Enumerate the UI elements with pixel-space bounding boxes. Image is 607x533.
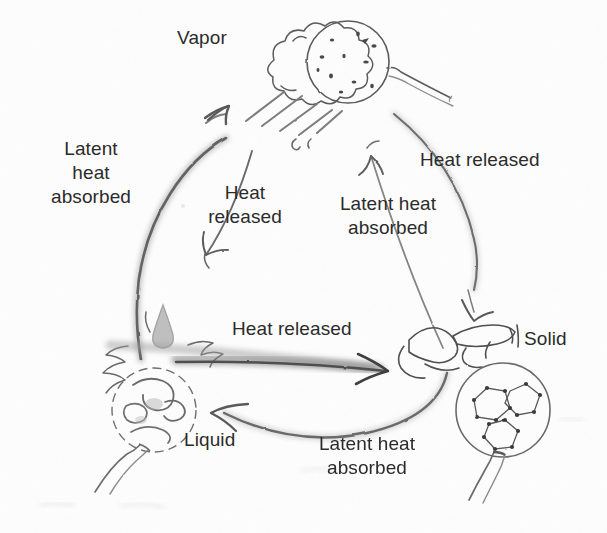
label-latent-heat-absorbed-bottom: Latent heat absorbed [284, 432, 450, 480]
label-vapor: Vapor [156, 26, 248, 50]
label-latent-heat-absorbed-middle: Latent heat absorbed [318, 192, 458, 240]
label-solid: Solid [524, 327, 594, 351]
diagram-canvas: Vapor Latent heat absorbed Heat released… [0, 0, 607, 533]
label-heat-released-top-left: Heat released [190, 181, 300, 229]
label-liquid: Liquid [184, 428, 262, 452]
label-heat-released-center: Heat released [232, 317, 388, 341]
label-latent-heat-absorbed-left: Latent heat absorbed [22, 137, 160, 208]
label-heat-released-right: Heat released [420, 148, 572, 172]
